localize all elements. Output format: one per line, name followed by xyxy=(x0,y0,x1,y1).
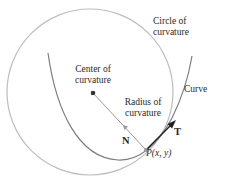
label-line: curvature xyxy=(68,75,118,86)
radius-of-curvature-label: Radius of curvature xyxy=(118,97,168,119)
label-line: Center of xyxy=(68,64,118,75)
tangent-label: T xyxy=(174,126,181,137)
tangent-vector xyxy=(146,124,172,150)
circle-of-curvature-label: Circle of curvature xyxy=(153,16,189,38)
label-line: Radius of xyxy=(118,97,168,108)
label-line: Circle of xyxy=(153,16,189,27)
curve-label: Curve xyxy=(184,84,207,95)
center-of-curvature-label: Center of curvature xyxy=(68,64,118,86)
point-label: P(x, y) xyxy=(146,148,171,159)
label-line: curvature xyxy=(118,108,168,119)
normal-label: N xyxy=(122,135,130,146)
center-of-curvature-dot xyxy=(91,91,96,96)
label-line: curvature xyxy=(153,27,189,38)
